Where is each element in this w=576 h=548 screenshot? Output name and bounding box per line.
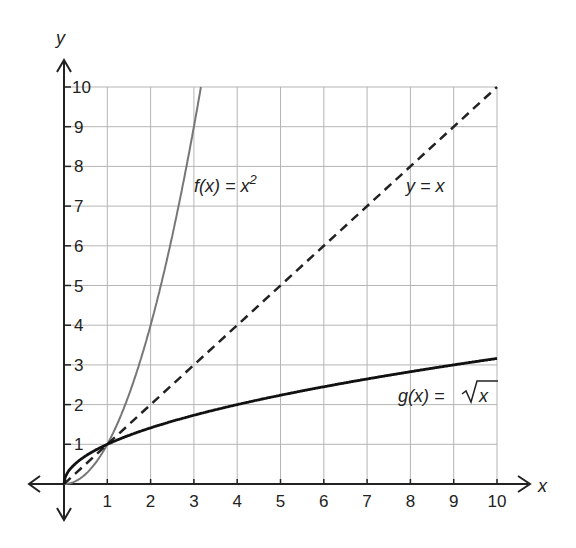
y-tick-label: 9 bbox=[74, 118, 83, 137]
x-tick-label: 8 bbox=[406, 492, 415, 511]
label-f-x-squared: f(x) = x2 bbox=[194, 172, 258, 196]
y-tick-label: 10 bbox=[72, 78, 91, 97]
function-graph: 1234567891012345678910xyf(x) = x2y = xg(… bbox=[0, 0, 576, 548]
y-tick-label: 6 bbox=[74, 237, 83, 256]
x-tick-label: 10 bbox=[488, 492, 507, 511]
label-g-radicand: x bbox=[478, 386, 489, 406]
x-tick-label: 1 bbox=[103, 492, 112, 511]
y-axis-label: y bbox=[54, 28, 66, 48]
x-axis-label: x bbox=[537, 476, 548, 496]
y-tick-label: 4 bbox=[74, 316, 83, 335]
x-tick-label: 9 bbox=[449, 492, 458, 511]
y-tick-label: 7 bbox=[74, 197, 83, 216]
y-tick-label: 3 bbox=[74, 356, 83, 375]
y-tick-label: 1 bbox=[74, 435, 83, 454]
label-y-equals-x: y = x bbox=[404, 176, 446, 196]
x-tick-label: 4 bbox=[232, 492, 241, 511]
y-tick-label: 5 bbox=[74, 277, 83, 296]
label-g-sqrt-x: g(x) = bbox=[398, 386, 445, 406]
x-tick-label: 5 bbox=[276, 492, 285, 511]
x-tick-label: 3 bbox=[189, 492, 198, 511]
x-tick-label: 7 bbox=[362, 492, 371, 511]
x-tick-label: 2 bbox=[146, 492, 155, 511]
x-tick-label: 6 bbox=[319, 492, 328, 511]
y-tick-label: 8 bbox=[74, 157, 83, 176]
y-tick-label: 2 bbox=[74, 396, 83, 415]
